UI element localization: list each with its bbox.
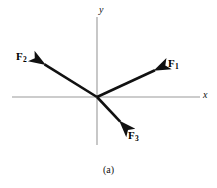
- vector-diagram-canvas: [0, 0, 217, 188]
- vector-label-f1-subscript: 1: [175, 62, 179, 71]
- vector-label-f3: F3: [128, 130, 138, 141]
- vector-label-f3-subscript: 3: [135, 134, 139, 143]
- vector-f1-arrow: [97, 70, 155, 97]
- vector-f3-arrow: [97, 97, 120, 122]
- vector-label-f1-text: F: [168, 57, 175, 69]
- x-axis-label: x: [203, 90, 207, 100]
- vector-f2-arrow: [44, 64, 97, 97]
- vector-label-f2-subscript: 2: [23, 55, 27, 64]
- vector-label-f2: F2: [16, 51, 26, 62]
- y-axis-label: y: [99, 5, 103, 15]
- vectors-group: [44, 64, 154, 121]
- figure-caption: (a): [0, 165, 217, 175]
- axes-group: [12, 17, 200, 145]
- vector-label-f1: F1: [168, 58, 178, 69]
- vector-label-f3-text: F: [128, 129, 135, 141]
- force-vector-diagram: F1 F2 F3 y x (a): [0, 0, 217, 188]
- vector-label-f2-text: F: [16, 50, 23, 62]
